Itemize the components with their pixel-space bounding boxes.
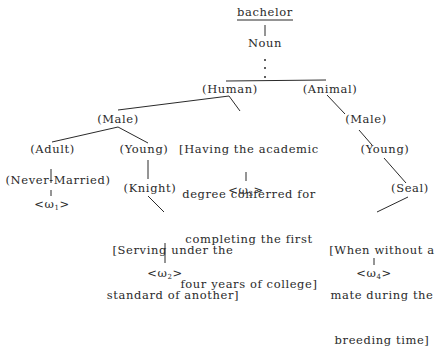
edge-seal-d4 bbox=[377, 197, 408, 212]
edge-male-young bbox=[118, 127, 148, 143]
edge-human-male bbox=[118, 96, 229, 110]
part-of-speech: Noun bbox=[235, 36, 295, 51]
edge-knight-d2 bbox=[148, 196, 164, 212]
marker-young-human: (Young) bbox=[114, 142, 174, 157]
reading-w2: <ω2> bbox=[143, 266, 187, 285]
edge-human-d3 bbox=[229, 96, 240, 111]
distinguisher-line: standard of another] bbox=[103, 288, 243, 303]
root-word: bachelor bbox=[225, 5, 305, 20]
reading-label: > bbox=[173, 266, 183, 280]
marker-male-human: (Male) bbox=[86, 112, 150, 127]
distinguisher-line: [Serving under the bbox=[103, 243, 243, 258]
edge-male-adult bbox=[52, 127, 118, 142]
reading-label: <ω bbox=[34, 197, 54, 211]
marker-male-animal: (Male) bbox=[336, 112, 396, 127]
distinguisher-line: [Having the academic bbox=[175, 142, 323, 157]
ellipsis-dot bbox=[264, 76, 266, 78]
distinguisher-line: mate during the bbox=[325, 288, 439, 303]
marker-adult: (Adult) bbox=[25, 142, 80, 157]
ellipsis-dot bbox=[264, 67, 266, 69]
edge-young-seal bbox=[384, 158, 406, 183]
marker-animal: (Animal) bbox=[295, 82, 365, 97]
reading-w1: <ω1> bbox=[30, 197, 74, 216]
distinguisher-line: breeding time] bbox=[325, 333, 439, 348]
reading-label: <ω bbox=[356, 266, 376, 280]
marker-never-married: (Never-Married) bbox=[2, 173, 114, 188]
marker-knight: (Knight) bbox=[120, 181, 180, 196]
marker-human: (Human) bbox=[190, 82, 270, 97]
reading-label: > bbox=[254, 183, 264, 197]
edge-split-human-animal bbox=[226, 80, 326, 81]
ellipsis-dot bbox=[264, 59, 266, 61]
marker-seal: (Seal) bbox=[380, 181, 440, 196]
reading-label: > bbox=[60, 197, 70, 211]
reading-w3: <ω3> bbox=[224, 183, 268, 202]
reading-label: <ω bbox=[228, 183, 248, 197]
distinguisher-line: [When without a bbox=[325, 243, 439, 258]
reading-label: > bbox=[382, 266, 392, 280]
reading-w4: <ω4> bbox=[352, 266, 396, 285]
reading-label: <ω bbox=[147, 266, 167, 280]
marker-young-animal: (Young) bbox=[355, 142, 415, 157]
